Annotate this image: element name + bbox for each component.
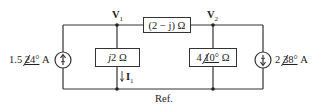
impedance-series: (2 − j) Ω xyxy=(143,17,191,33)
impedance-magnitude: 4 xyxy=(196,52,201,63)
impedance-series-label: (2 − j) Ω xyxy=(149,20,186,31)
node-ref-left-dot xyxy=(115,87,119,91)
node-ref-right-dot xyxy=(211,87,215,91)
source-left-label: 1.5 24° A xyxy=(9,55,50,66)
node-v1-dot xyxy=(115,23,119,27)
impedance-shunt-left: j2 Ω xyxy=(95,48,140,67)
node-v2-dot xyxy=(211,23,215,27)
node-v2-label: V2 xyxy=(207,10,218,23)
source-right-label: 2 38° A xyxy=(275,55,308,66)
current-i1-label: I1 xyxy=(126,72,134,85)
impedance-unit: Ω xyxy=(222,52,230,63)
node-ref-label: Ref. xyxy=(155,94,173,105)
impedance-shunt-right: 4 10° Ω xyxy=(189,48,237,67)
node-v1-label: V1 xyxy=(112,10,123,23)
impedance-angle: 10° xyxy=(204,52,219,63)
impedance-shunt-left-label: 2 Ω xyxy=(111,52,127,63)
